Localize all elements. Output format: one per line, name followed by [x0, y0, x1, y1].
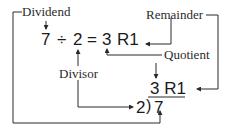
equation-operator: ÷ — [57, 31, 66, 48]
long-division-quotient: 3 R1 — [150, 80, 186, 97]
dividend-label: Dividend — [22, 5, 70, 18]
division-diagram: Dividend Remainder Quotient Divisor 7 ÷ … — [0, 0, 231, 134]
equation-quotient: 3 — [102, 31, 111, 48]
equation-dividend: 7 — [41, 31, 50, 48]
equation-equals: = — [87, 31, 97, 48]
quotient-label: Quotient — [164, 48, 210, 61]
equation-remainder: R1 — [117, 31, 139, 48]
remainder-label: Remainder — [146, 8, 203, 21]
divisor-label: Divisor — [59, 67, 98, 80]
long-division-dividend: 7 — [154, 99, 163, 116]
long-division-bracket: ) — [146, 98, 151, 114]
quotient-arrow — [107, 49, 162, 55]
divisor-bracket-line — [78, 80, 133, 107]
equation-divisor: 2 — [73, 31, 82, 48]
long-division-divisor: 2 — [136, 99, 145, 116]
